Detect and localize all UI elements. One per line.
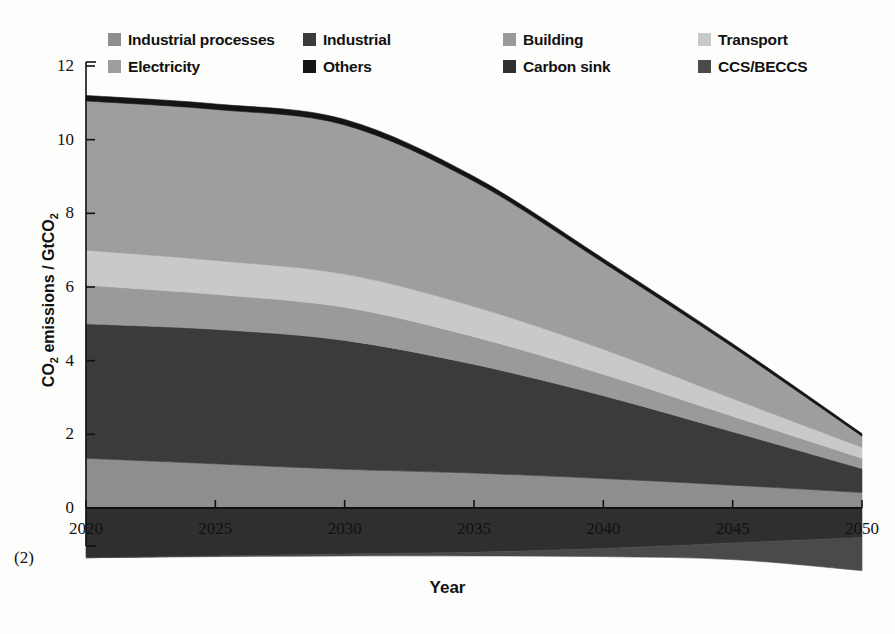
y-axis-label-text: CO2 emissions / GtCO2 xyxy=(40,213,57,387)
plot-area: 024681012 2020202520302035204020452050 C… xyxy=(0,0,895,634)
x-tick-label: 2045 xyxy=(703,520,763,537)
x-tick-label: 2030 xyxy=(315,520,375,537)
x-tick-label: 2025 xyxy=(185,520,245,537)
y-axis-label: CO2 emissions / GtCO2 xyxy=(40,100,60,500)
x-tick-label: 2035 xyxy=(444,520,504,537)
x-tick-label: 2020 xyxy=(56,520,116,537)
y-tick-label: 12 xyxy=(44,57,74,74)
chart-page: Industrial processes Industrial Building… xyxy=(0,0,895,634)
x-axis-label: Year xyxy=(0,578,895,598)
x-tick-label: 2040 xyxy=(573,520,633,537)
area-bands xyxy=(86,95,862,570)
figure-footnote: (2) xyxy=(14,548,34,568)
y-tick-label: 0 xyxy=(44,499,74,516)
x-tick-label: 2050 xyxy=(832,520,892,537)
stacked-area-chart xyxy=(0,0,895,634)
